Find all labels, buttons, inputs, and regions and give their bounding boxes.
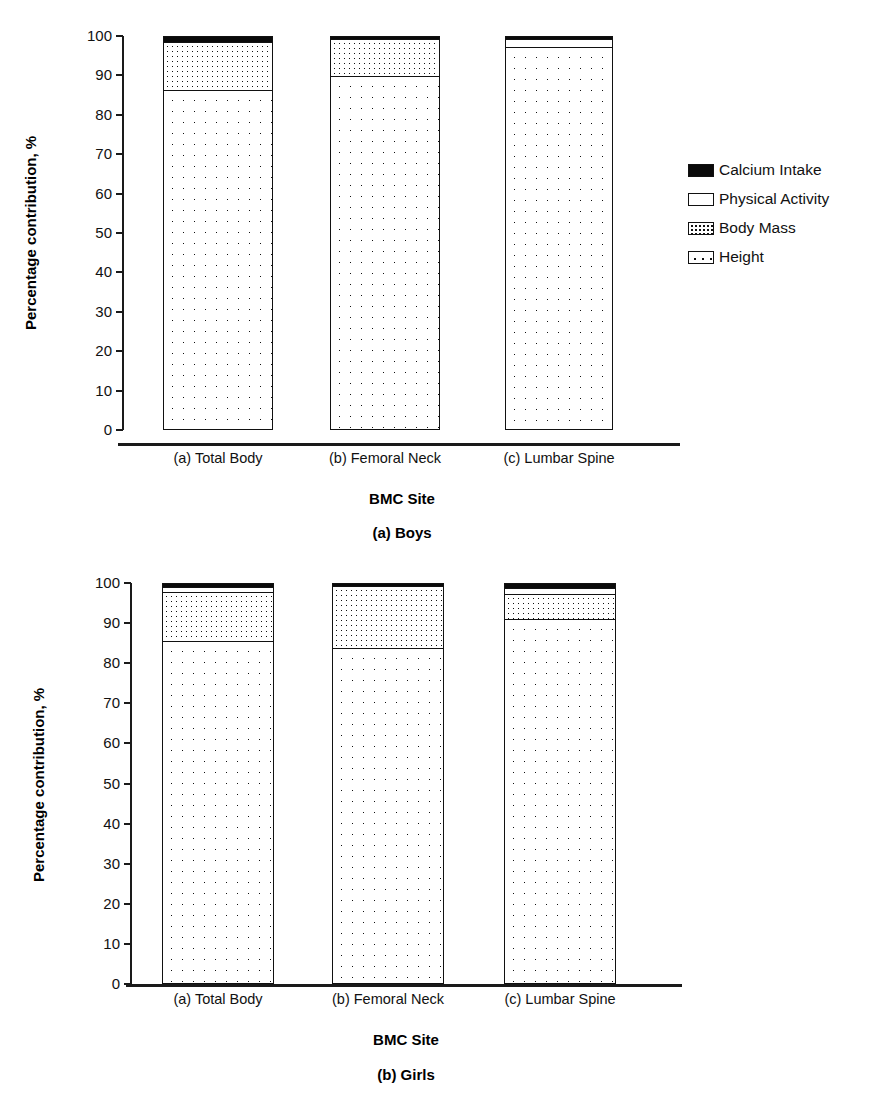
y-axis-tick-label: 80 [86,655,120,670]
x-axis-line [126,984,682,987]
legend-item-calcium-intake[interactable]: Calcium Intake [688,160,822,180]
bar-segment-height[interactable] [164,90,272,429]
y-axis-tick-label: 50 [78,225,112,240]
stacked-bar[interactable] [332,583,444,984]
y-axis-tick [124,823,131,825]
y-axis-tick [116,114,123,116]
y-axis-tick-label: 0 [86,976,120,991]
y-axis-tick-label: 90 [78,67,112,82]
y-axis-tick [116,271,123,273]
bar-segment-physical-activity[interactable] [506,39,612,47]
x-axis-tick-label: (c) Lumbar Spine [476,991,644,1007]
x-axis-tick-label: (a) Total Body [134,991,302,1007]
y-axis-tick [116,350,123,352]
y-axis-tick [124,582,131,584]
panel-caption-boys: (a) Boys [124,524,680,541]
height-swatch-icon [688,251,714,264]
y-axis-title: Percentage contribution, % [30,688,47,882]
legend-label: Physical Activity [719,191,829,207]
bar-segment-body-mass[interactable] [333,586,443,648]
stacked-bar[interactable] [505,36,613,430]
y-axis-tick [124,742,131,744]
y-axis-tick [116,153,123,155]
bar-segment-body-mass[interactable] [505,594,615,619]
y-axis-tick-label: 40 [86,816,120,831]
chart-panel-boys: Percentage contribution, % 1009080706050… [0,0,895,550]
legend-item-height[interactable]: Height [688,247,764,267]
y-axis-tick [124,863,131,865]
y-axis-tick [124,943,131,945]
bar-segment-height[interactable] [333,648,443,983]
y-axis-tick-label: 30 [78,304,112,319]
bar-segment-body-mass[interactable] [331,39,439,76]
stacked-bar[interactable] [163,36,273,430]
x-axis-tick-label: (a) Total Body [135,450,301,466]
y-axis-tick-label: 20 [78,343,112,358]
y-axis-tick-label: 40 [78,264,112,279]
physical-swatch-icon [688,193,714,206]
stacked-bar[interactable] [504,583,616,984]
bar-segment-height[interactable] [163,641,273,983]
x-axis-tick-label: (b) Femoral Neck [304,991,472,1007]
x-axis-title: BMC Site [124,490,680,507]
y-axis-tick [116,390,123,392]
bar-segment-height[interactable] [331,76,439,429]
bodymass-swatch-icon [688,222,714,235]
y-axis-tick-label: 60 [78,186,112,201]
x-axis-title: BMC Site [132,1031,680,1048]
legend-item-physical-activity[interactable]: Physical Activity [688,189,829,209]
y-axis-tick-label: 80 [78,107,112,122]
y-axis-tick-label: 10 [86,936,120,951]
y-axis-tick [116,311,123,313]
stacked-bar[interactable] [162,583,274,984]
bar-segment-body-mass[interactable] [163,592,273,641]
y-axis-tick [116,232,123,234]
y-axis-tick [116,193,123,195]
figure-root: Percentage contribution, % 1009080706050… [0,0,895,1108]
y-axis-tick-label: 10 [78,383,112,398]
y-axis-tick-label: 20 [86,896,120,911]
y-axis-tick-label: 60 [86,735,120,750]
y-axis-tick [124,622,131,624]
y-axis-tick-label: 100 [86,575,120,590]
y-axis-tick-label: 50 [86,776,120,791]
x-axis-line [118,443,680,446]
y-axis-tick [124,662,131,664]
y-axis-tick-label: 70 [78,146,112,161]
legend-label: Body Mass [719,220,796,236]
panel-caption-girls: (b) Girls [132,1066,680,1083]
y-axis-tick-label: 90 [86,615,120,630]
y-axis-tick [124,702,131,704]
y-axis-tick [124,903,131,905]
legend-label: Calcium Intake [719,162,822,178]
stacked-bar[interactable] [330,36,440,430]
calcium-swatch-icon [688,164,714,177]
y-axis-tick [124,783,131,785]
bar-segment-body-mass[interactable] [164,42,272,90]
y-axis-tick-label: 100 [78,28,112,43]
x-axis-tick-label: (c) Lumbar Spine [477,450,641,466]
plot-area [132,583,680,984]
y-axis-tick [116,429,123,431]
y-axis-tick-label: 0 [78,422,112,437]
y-axis-title: Percentage contribution, % [22,136,39,330]
bar-segment-height[interactable] [505,619,615,983]
chart-panel-girls: Percentage contribution, % 1009080706050… [0,550,895,1108]
x-axis-tick-label: (b) Femoral Neck [302,450,468,466]
y-axis-tick-label: 30 [86,856,120,871]
y-axis-tick [116,35,123,37]
plot-area [124,36,680,430]
legend-item-body-mass[interactable]: Body Mass [688,218,796,238]
y-axis-tick-label: 70 [86,695,120,710]
legend-label: Height [719,249,764,265]
bar-segment-height[interactable] [506,47,612,429]
y-axis-tick [116,74,123,76]
